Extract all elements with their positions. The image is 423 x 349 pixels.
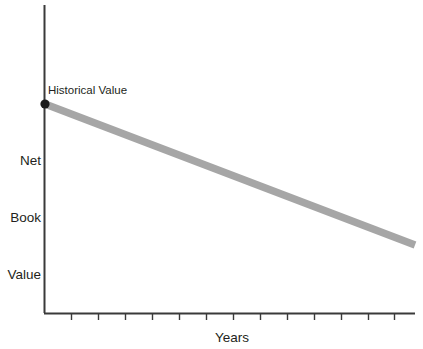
x-axis-title: Years [152,328,312,347]
chart-container: Net Book Value Historical Value Years [0,0,423,349]
y-axis-title: Net Book Value [0,113,41,322]
x-axis-ticks [72,314,395,320]
chart-plot-area [0,0,423,349]
historical-value-annotation: Historical Value [48,84,127,96]
historical-value-marker [40,99,49,108]
y-axis-title-line: Net [0,151,41,170]
y-axis-title-line: Book [0,208,41,227]
y-axis-title-line: Value [0,265,41,284]
series-line-net-book-value [45,104,415,245]
